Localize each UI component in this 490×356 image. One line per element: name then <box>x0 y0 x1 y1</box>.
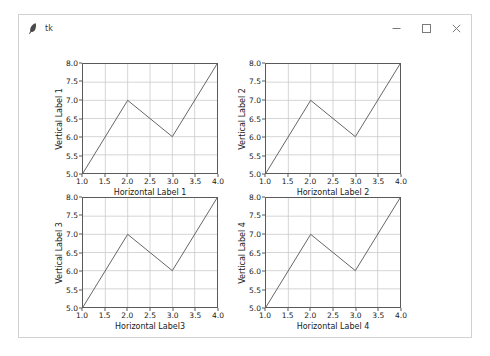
x-tick-label: 3.0 <box>350 177 362 186</box>
x-tick-label: 2.5 <box>144 311 156 320</box>
plot-area-3[interactable] <box>265 197 401 308</box>
y-tick-mark <box>79 136 82 137</box>
y-tick-label: 5.5 <box>66 285 78 294</box>
application-window: tk <box>18 14 472 338</box>
x-tick-mark <box>401 174 402 177</box>
x-tick-label: 1.5 <box>282 177 294 186</box>
y-tick-label: 8.0 <box>66 193 78 202</box>
subplot-axes-1[interactable]: Vertical Label 2 Horizontal Label 2 5.05… <box>265 63 401 174</box>
x-tick-label: 3.5 <box>189 311 201 320</box>
x-tick-mark <box>82 174 83 177</box>
window-title: tk <box>45 24 53 33</box>
x-tick-mark <box>401 308 402 311</box>
y-tick-mark <box>262 197 265 198</box>
x-tick-mark <box>218 308 219 311</box>
y-tick-mark <box>262 233 265 234</box>
y-tick-label: 6.5 <box>249 114 261 123</box>
x-tick-mark <box>127 308 128 311</box>
x-tick-mark <box>195 308 196 311</box>
x-tick-label: 3.0 <box>167 177 179 186</box>
y-tick-mark <box>262 81 265 82</box>
x-tick-mark <box>150 174 151 177</box>
x-tick-label: 2.0 <box>121 177 133 186</box>
y-tick-mark <box>79 99 82 100</box>
plot-area-2[interactable] <box>82 197 218 308</box>
y-axis-label-1: Vertical Label 2 <box>239 88 248 150</box>
x-tick-mark <box>127 174 128 177</box>
y-tick-mark <box>79 233 82 234</box>
plot-area-1[interactable] <box>265 63 401 174</box>
x-tick-label: 1.5 <box>282 311 294 320</box>
x-axis-label-3: Horizontal Label 4 <box>297 322 370 331</box>
x-tick-label: 2.5 <box>327 311 339 320</box>
title-bar[interactable]: tk <box>19 15 471 41</box>
plot-graphics-2 <box>83 198 217 307</box>
y-tick-label: 6.0 <box>249 266 261 275</box>
x-tick-mark <box>310 308 311 311</box>
subplot-axes-0[interactable]: Vertical Label 1 Horizontal Label 1 5.05… <box>82 63 218 174</box>
maximize-button[interactable] <box>411 15 441 41</box>
y-tick-label: 7.0 <box>66 229 78 238</box>
y-axis-label-3: Vertical Label 4 <box>239 222 248 284</box>
y-tick-label: 6.0 <box>66 266 78 275</box>
x-tick-mark <box>172 308 173 311</box>
matplotlib-figure-canvas[interactable]: Vertical Label 1 Horizontal Label 1 5.05… <box>19 41 471 337</box>
y-tick-mark <box>262 270 265 271</box>
x-tick-label: 1.0 <box>259 177 271 186</box>
y-tick-mark <box>79 252 82 253</box>
close-button[interactable] <box>441 15 471 41</box>
x-tick-label: 2.0 <box>304 311 316 320</box>
x-tick-label: 1.0 <box>259 311 271 320</box>
x-tick-label: 4.0 <box>212 311 224 320</box>
x-tick-label: 3.5 <box>189 177 201 186</box>
x-tick-mark <box>287 174 288 177</box>
y-tick-mark <box>79 270 82 271</box>
x-tick-mark <box>172 174 173 177</box>
y-tick-mark <box>79 81 82 82</box>
y-tick-label: 5.5 <box>249 151 261 160</box>
y-tick-mark <box>262 99 265 100</box>
x-tick-mark <box>82 308 83 311</box>
subplot-axes-3[interactable]: Vertical Label 4 Horizontal Label 4 5.05… <box>265 197 401 308</box>
x-tick-mark <box>150 308 151 311</box>
x-tick-label: 3.0 <box>350 311 362 320</box>
x-tick-label: 4.0 <box>395 177 407 186</box>
y-tick-label: 7.5 <box>249 77 261 86</box>
y-tick-mark <box>262 136 265 137</box>
y-tick-label: 7.0 <box>249 229 261 238</box>
x-tick-mark <box>195 174 196 177</box>
y-tick-mark <box>79 215 82 216</box>
y-tick-label: 7.5 <box>66 211 78 220</box>
x-tick-label: 4.0 <box>395 311 407 320</box>
y-tick-label: 7.0 <box>249 95 261 104</box>
y-tick-mark <box>262 118 265 119</box>
y-tick-label: 6.5 <box>249 248 261 257</box>
y-tick-label: 8.0 <box>66 59 78 68</box>
x-tick-mark <box>333 174 334 177</box>
x-tick-mark <box>355 308 356 311</box>
y-tick-label: 6.0 <box>66 132 78 141</box>
y-tick-mark <box>262 252 265 253</box>
y-tick-label: 7.5 <box>249 211 261 220</box>
y-tick-mark <box>262 155 265 156</box>
x-tick-label: 3.0 <box>167 311 179 320</box>
x-tick-label: 4.0 <box>212 177 224 186</box>
y-tick-mark <box>79 155 82 156</box>
y-tick-label: 6.5 <box>66 248 78 257</box>
y-axis-label-0: Vertical Label 1 <box>56 88 65 150</box>
x-tick-label: 1.0 <box>76 177 88 186</box>
plot-area-0[interactable] <box>82 63 218 174</box>
x-tick-label: 1.5 <box>99 311 111 320</box>
screen: tk <box>0 0 490 356</box>
x-tick-mark <box>218 174 219 177</box>
y-tick-label: 7.0 <box>66 95 78 104</box>
x-tick-label: 2.5 <box>327 177 339 186</box>
y-tick-label: 7.5 <box>66 77 78 86</box>
x-tick-label: 3.5 <box>372 311 384 320</box>
feather-icon <box>27 22 39 35</box>
subplot-axes-2[interactable]: Vertical Label 3 Horizontal Label3 5.05.… <box>82 197 218 308</box>
y-tick-mark <box>79 197 82 198</box>
x-axis-label-1: Horizontal Label 2 <box>297 188 370 197</box>
minimize-button[interactable] <box>381 15 411 41</box>
x-tick-mark <box>378 308 379 311</box>
